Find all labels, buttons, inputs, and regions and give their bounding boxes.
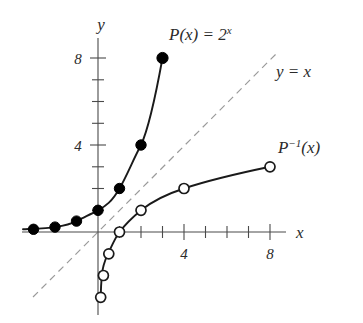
point-open bbox=[179, 184, 189, 194]
point-filled bbox=[136, 140, 146, 150]
point-open bbox=[96, 292, 106, 302]
point-filled bbox=[157, 52, 168, 63]
point-open bbox=[136, 205, 146, 215]
exponential-label-exponent: x bbox=[226, 24, 232, 36]
point-open bbox=[104, 249, 114, 259]
figure-container: 8 4 4 8 y x P(x) = 2x y = x P−1(x) bbox=[0, 0, 363, 323]
y-tick-label-4: 4 bbox=[74, 138, 82, 154]
exponential-label-base: P(x) = 2 bbox=[168, 25, 227, 44]
exponential-function-label: P(x) = 2x bbox=[168, 24, 232, 44]
x-tick-label-8: 8 bbox=[266, 246, 274, 262]
identity-line-label: y = x bbox=[274, 62, 312, 81]
point-filled bbox=[114, 183, 124, 193]
inverse-label-arg: (x) bbox=[301, 138, 320, 157]
y-tick-label-8: 8 bbox=[74, 51, 82, 67]
inverse-label-base: P bbox=[277, 138, 288, 157]
x-tick-label-4: 4 bbox=[180, 246, 188, 262]
point-filled bbox=[71, 216, 81, 226]
inverse-label-exponent: −1 bbox=[288, 137, 301, 149]
point-open bbox=[265, 162, 275, 172]
point-open bbox=[98, 271, 108, 281]
point-filled bbox=[28, 224, 38, 234]
point-filled bbox=[93, 205, 103, 215]
function-plot-svg: 8 4 4 8 y x P(x) = 2x y = x P−1(x) bbox=[0, 0, 363, 323]
x-axis-label: x bbox=[295, 223, 304, 242]
point-filled bbox=[50, 222, 60, 232]
identity-line-y-equals-x bbox=[33, 52, 278, 297]
point-open bbox=[115, 227, 125, 237]
y-axis-label: y bbox=[95, 15, 105, 34]
inverse-function-label: P−1(x) bbox=[277, 137, 321, 157]
